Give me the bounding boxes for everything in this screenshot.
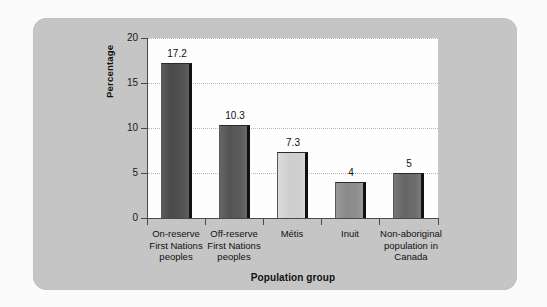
figure-root: 20 15 10 5 0 17.2 10.3 7.3	[0, 0, 547, 307]
category-line: First Nations	[202, 240, 266, 252]
bar-off-reserve-first-nations-peoples	[219, 125, 250, 218]
gridline-20	[148, 38, 438, 39]
y-tick-label: 10	[127, 121, 138, 134]
category-line: Inuit	[318, 228, 382, 240]
y-axis-title: Percentage	[104, 80, 115, 98]
y-tick-mark	[141, 38, 148, 39]
category-line: Canada	[375, 251, 447, 263]
bar-non-aboriginal-population-in-canada	[393, 173, 424, 218]
bar-value-on-reserve: 17.2	[150, 48, 204, 59]
category-line: First Nations	[144, 240, 208, 252]
bar-value-non-aboriginal: 5	[382, 158, 436, 169]
y-tick-label: 20	[127, 31, 138, 44]
y-tick-mark	[141, 128, 148, 129]
category-line: Métis	[260, 228, 324, 240]
bar-value-off-reserve: 10.3	[208, 110, 262, 121]
y-tick-label: 5	[132, 166, 138, 179]
x-axis-line	[147, 218, 439, 219]
x-tick-0	[147, 218, 148, 225]
category-line: peoples	[202, 251, 266, 263]
category-label-non-aboriginal: Non-aboriginal population in Canada	[375, 228, 447, 263]
y-tick-label: 15	[127, 76, 138, 89]
x-tick-1	[205, 218, 206, 225]
category-line: peoples	[144, 251, 208, 263]
category-line: Non-aboriginal	[375, 228, 447, 240]
bar-value-metis: 7.3	[266, 137, 320, 148]
x-tick-3	[321, 218, 322, 225]
y-tick-mark	[141, 83, 148, 84]
bar-on-reserve-first-nations-peoples	[161, 63, 192, 218]
y-tick-label: 0	[132, 211, 138, 224]
x-tick-5	[438, 218, 439, 225]
category-line: population in	[375, 240, 447, 252]
bar-metis	[277, 152, 308, 218]
category-label-off-reserve: Off-reserve First Nations peoples	[202, 228, 266, 263]
category-line: Off-reserve	[202, 228, 266, 240]
bar-inuit	[335, 182, 366, 218]
category-label-on-reserve: On-reserve First Nations peoples	[144, 228, 208, 263]
x-axis-title: Population group	[148, 272, 438, 283]
category-label-inuit: Inuit	[318, 228, 382, 240]
bar-value-inuit: 4	[324, 167, 378, 178]
x-tick-2	[263, 218, 264, 225]
category-line: On-reserve	[144, 228, 208, 240]
category-label-metis: Métis	[260, 228, 324, 240]
bar-chart: 20 15 10 5 0 17.2 10.3 7.3	[0, 0, 547, 307]
y-tick-mark	[141, 173, 148, 174]
x-tick-4	[379, 218, 380, 225]
